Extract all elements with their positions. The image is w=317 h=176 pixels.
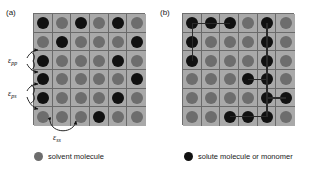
solvent-molecule: [280, 55, 292, 67]
solvent-molecule: [75, 92, 87, 104]
epsilon-ss-subscript: ss: [56, 137, 61, 143]
solvent-molecule: [112, 111, 124, 123]
polymer-bond: [266, 42, 267, 61]
epsilon-pp-subscript: pp: [11, 60, 17, 66]
polymer-bond: [248, 79, 267, 80]
solvent-molecule: [280, 111, 292, 123]
solvent-molecule: [280, 36, 292, 48]
solvent-molecule: [205, 55, 217, 67]
solvent-molecule: [131, 92, 143, 104]
legend-item-solvent: solvent molecule: [34, 152, 104, 161]
solute-molecule: [131, 36, 143, 48]
legend-solute-text: solute molecule or monomer: [198, 152, 293, 161]
polymer-bond: [266, 98, 267, 117]
solvent-molecule: [56, 55, 68, 67]
epsilon-pp-label: εpp: [8, 56, 17, 66]
polymer-bond: [266, 79, 267, 98]
legend-solvent-text: solvent molecule: [48, 152, 104, 161]
solvent-molecule: [75, 36, 87, 48]
solvent-molecule: [224, 55, 236, 67]
polymer-bond: [266, 23, 267, 42]
solvent-molecule: [131, 55, 143, 67]
polymer-bond: [266, 61, 267, 80]
lattice-model-figure: (a) εpp εps εss (b) solvent molecule sol…: [0, 0, 317, 176]
solvent-molecule: [224, 36, 236, 48]
solvent-molecule: [75, 55, 87, 67]
panel-b-lattice: [182, 13, 294, 125]
solvent-molecule: [56, 111, 68, 123]
solvent-molecule: [75, 111, 87, 123]
epsilon-ss-label: εss: [53, 133, 61, 143]
solvent-molecule: [131, 111, 143, 123]
polymer-bond: [230, 116, 249, 117]
solute-circle-icon: [184, 152, 193, 161]
polymer-bond: [192, 23, 193, 42]
polymer-bond: [211, 23, 230, 24]
polymer-bond: [192, 42, 193, 61]
solvent-molecule: [205, 111, 217, 123]
panel-b-label: (b): [160, 8, 170, 17]
panel-a-label: (a): [6, 8, 16, 17]
epsilon-ps-label: εps: [8, 89, 17, 99]
legend-item-solute: solute molecule or monomer: [184, 152, 293, 161]
solvent-molecule: [224, 92, 236, 104]
solute-molecule: [112, 55, 124, 67]
solvent-circle-icon: [34, 152, 43, 161]
panel-a-lattice: [33, 13, 145, 125]
epsilon-ps-subscript: ps: [11, 93, 16, 99]
polymer-bond: [192, 23, 211, 24]
polymer-bond: [267, 97, 286, 98]
polymer-bond: [248, 116, 267, 117]
